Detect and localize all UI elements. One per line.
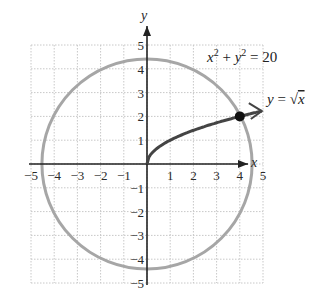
intersection-point bbox=[235, 111, 245, 121]
x-tick-label: 5 bbox=[260, 168, 267, 183]
x-axis-arrow-icon bbox=[238, 160, 248, 168]
y-tick-label: −5 bbox=[130, 276, 144, 291]
sqrt-curve bbox=[147, 111, 262, 164]
x-tick-label: 3 bbox=[213, 168, 220, 183]
x-tick-label: 2 bbox=[190, 168, 197, 183]
x-tick-label: 4 bbox=[237, 168, 244, 183]
x-tick-label: −1 bbox=[117, 168, 131, 183]
x-tick-label: −4 bbox=[47, 168, 61, 183]
y-tick-label: −3 bbox=[130, 228, 144, 243]
y-axis-label: y bbox=[139, 8, 148, 23]
y-tick-label: −2 bbox=[130, 205, 144, 220]
y-tick-label: 3 bbox=[138, 86, 145, 101]
x-tick-label: −2 bbox=[94, 168, 108, 183]
y-tick-label: 1 bbox=[138, 133, 145, 148]
y-tick-label: −4 bbox=[130, 252, 144, 267]
x-tick-label: −3 bbox=[70, 168, 84, 183]
y-axis-arrow-icon bbox=[143, 26, 151, 36]
x-tick-label: 1 bbox=[167, 168, 174, 183]
y-tick-label: 2 bbox=[138, 109, 145, 124]
chart: −5−4−3−2−11234554321−1−2−3−4−5 x y x2 + … bbox=[0, 0, 330, 302]
circle-equation-label: x2 + y2 = 20 bbox=[206, 47, 277, 65]
y-tick-label: 4 bbox=[138, 62, 145, 77]
y-tick-label: −1 bbox=[130, 181, 144, 196]
x-tick-label: −5 bbox=[24, 168, 38, 183]
x-axis-label: x bbox=[250, 155, 258, 170]
y-tick-label: 5 bbox=[138, 38, 145, 53]
sqrt-equation-label: y = √x bbox=[265, 91, 305, 107]
